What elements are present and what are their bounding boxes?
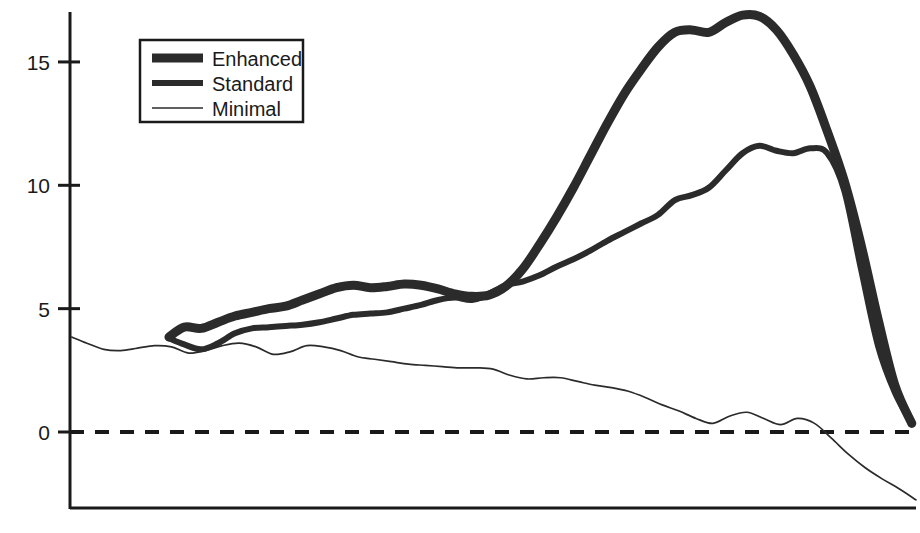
y-axis-tick-label: 10	[27, 174, 50, 197]
line-chart: 051015 EnhancedStandardMinimal	[0, 0, 920, 533]
legend-label-enhanced: Enhanced	[212, 48, 302, 70]
legend-label-standard: Standard	[212, 73, 293, 95]
chart-container: 051015 EnhancedStandardMinimal	[0, 0, 920, 533]
series-line-standard	[169, 146, 912, 424]
y-axis-tick-label: 0	[38, 421, 50, 444]
chart-legend: EnhancedStandardMinimal	[140, 40, 303, 122]
series-line-minimal	[72, 337, 916, 500]
y-axis-tick-label: 5	[38, 298, 50, 321]
y-axis-tick-label: 15	[27, 51, 50, 74]
y-axis-ticks: 051015	[27, 51, 80, 444]
legend-label-minimal: Minimal	[212, 98, 281, 120]
